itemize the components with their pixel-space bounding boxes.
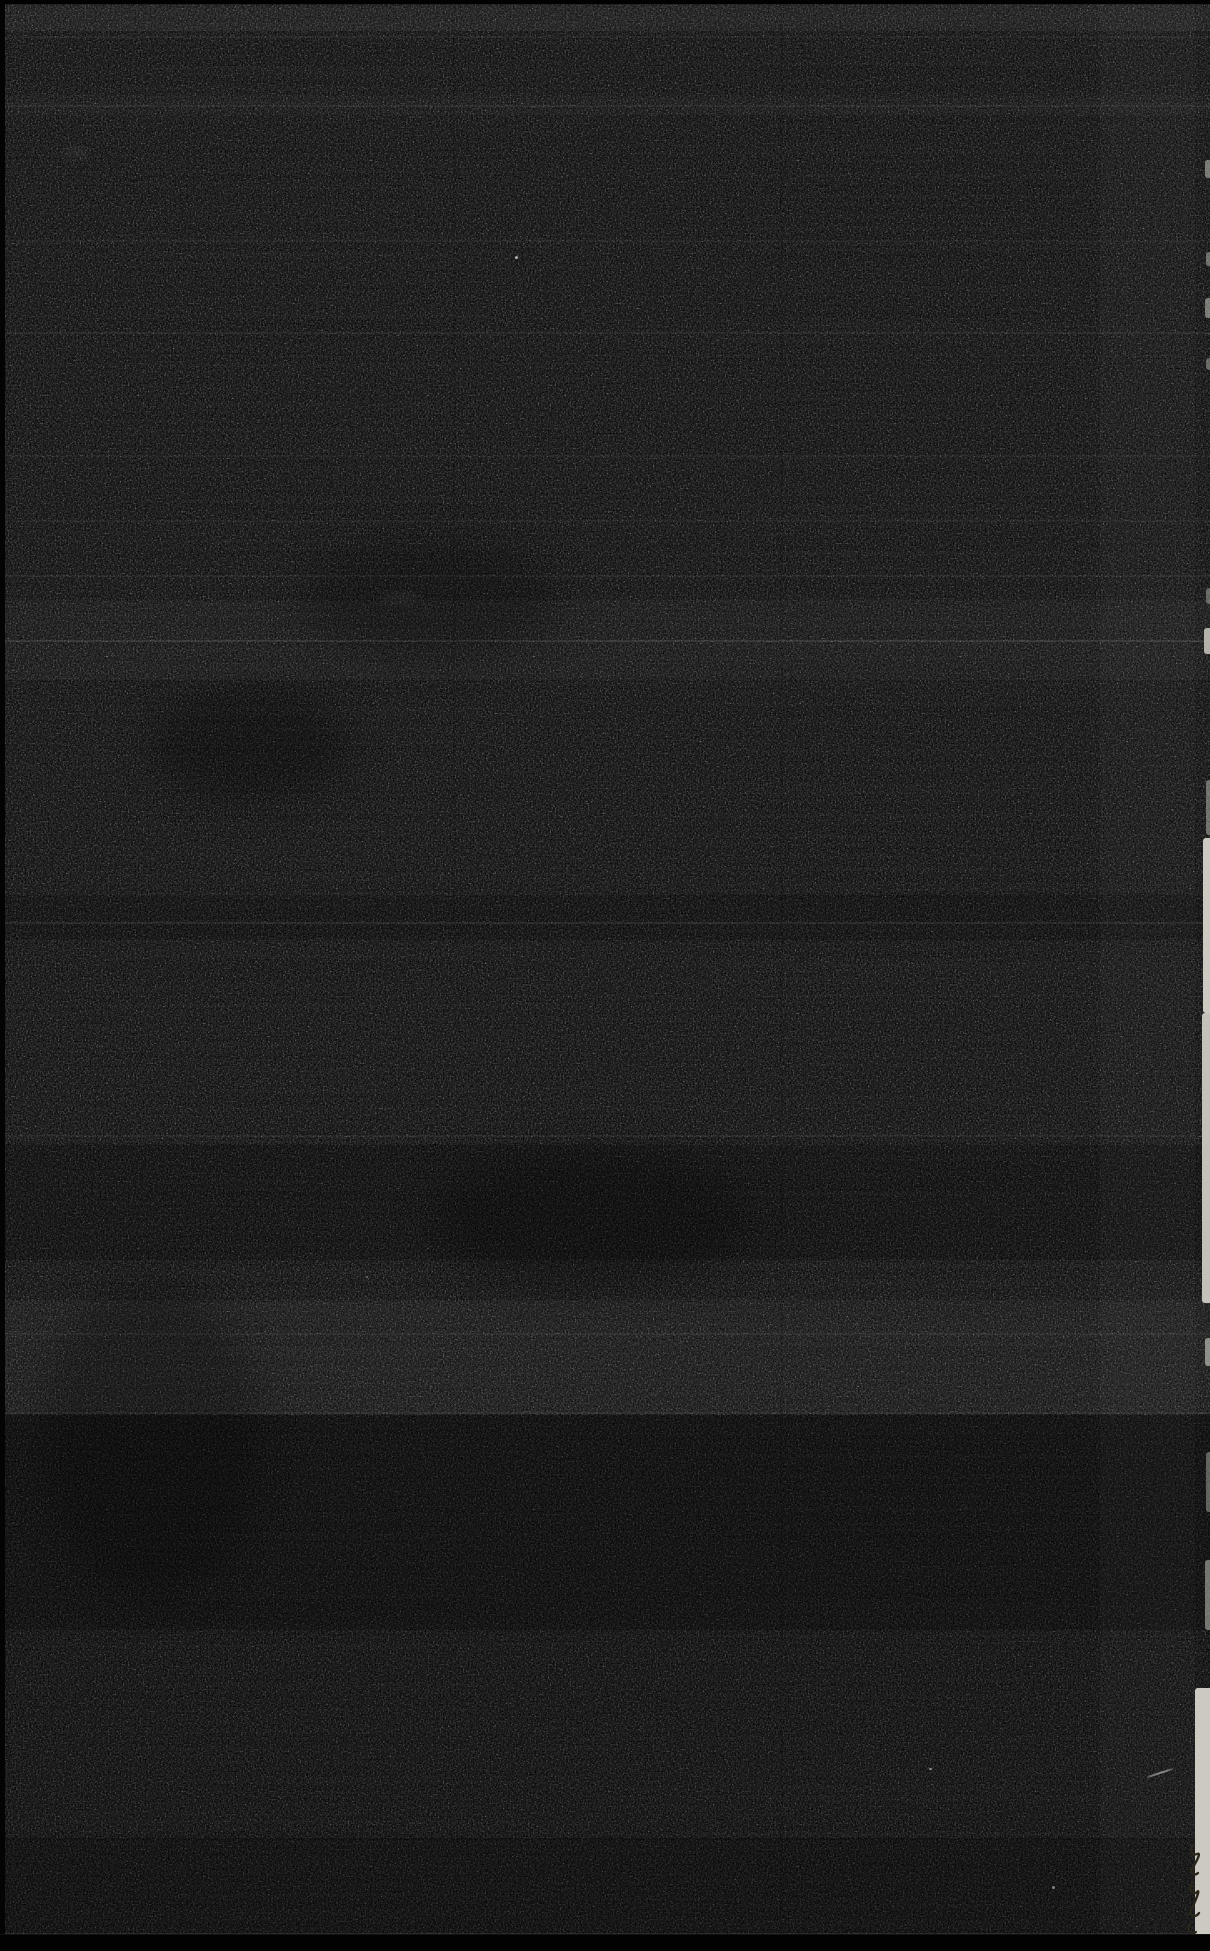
weave-noise-layer (0, 0, 1210, 1951)
cloth-grain-texture (0, 0, 1210, 1951)
pen-marks (1168, 1838, 1210, 1951)
pen-mark-squiggle (1191, 1844, 1199, 1874)
pen-mark-squiggle (1189, 1924, 1196, 1933)
scanned-black-page (0, 0, 1210, 1951)
top-scan-edge (0, 0, 1210, 4)
left-page-edge (0, 0, 5, 1951)
bottom-scan-edge (0, 1934, 1210, 1951)
pen-mark-squiggle (1190, 1882, 1199, 1916)
